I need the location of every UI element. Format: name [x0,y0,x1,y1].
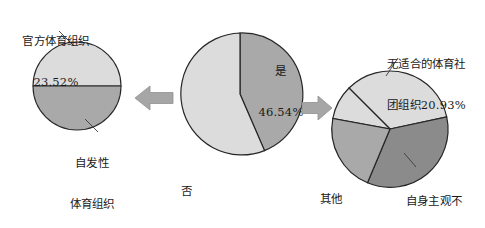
pie-middle-label-no-value: 53.46% [156,226,218,228]
pie-chart-figure: 官方体育组织 23.52% 自发性 体育组织 23.02% 是 46.54% 否… [0,0,485,228]
pie-right-label-no-suitable-club: 无适合的体育社 团组织20.93% [368,31,485,140]
pie-left-label-spontaneous: 自发性 体育组织 23.02% [46,130,138,228]
pie-middle-label-yes-text: 是 [252,65,310,79]
pie-left-label-spontaneous-line2: 体育组织 [46,198,138,212]
pie-right-label-other: 其他 12.37% [320,166,386,228]
pie-right-label-unwilling: 自身主观不 愿意参加 20.16% [386,168,482,228]
pie-right-label-unwilling-line1: 自身主观不 [386,195,482,209]
pie-right-label-no-suitable-club-line2: 团组织20.93% [368,99,485,113]
pie-left-label-official: 官方体育组织 23.52% [0,8,112,117]
pie-left-label-spontaneous-line1: 自发性 [46,157,138,171]
arrow-left-icon [133,82,175,114]
pie-right-label-no-suitable-club-line1: 无适合的体育社 [368,58,485,72]
pie-right-label-other-text: 其他 [320,193,386,207]
pie-middle-label-no: 否 53.46% [156,158,218,228]
pie-middle-label-no-text: 否 [156,185,218,199]
pie-left-label-official-value: 23.52% [0,76,112,90]
pie-left-label-official-text: 官方体育组织 [0,35,112,49]
